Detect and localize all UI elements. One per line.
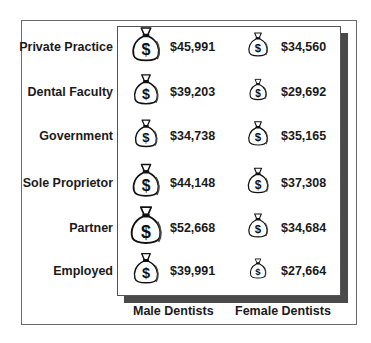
row-label: Partner [69,221,113,235]
money-bag-icon: $ [132,252,160,290]
svg-text:$: $ [142,86,150,102]
svg-text:$: $ [255,131,262,143]
male-salary-value: $45,991 [170,40,215,54]
money-bag-icon: $ [246,167,269,199]
row-label: Dental Faculty [28,85,113,99]
female-salary-value: $37,308 [281,176,326,190]
svg-text:$: $ [255,88,261,99]
money-bag-icon: $ [133,119,158,154]
row-label: Employed [53,264,113,278]
male-salary-value: $39,203 [170,85,215,99]
svg-text:$: $ [142,40,151,58]
svg-text:$: $ [142,177,151,194]
column-label-male: Male Dentists [133,304,214,318]
svg-text:$: $ [142,265,150,281]
female-salary-value: $34,560 [281,40,326,54]
money-bag-icon: $ [131,163,161,204]
female-salary-value: $35,165 [281,129,326,143]
svg-text:$: $ [255,223,262,235]
svg-text:$: $ [255,178,262,192]
column-label-female: Female Dentists [235,304,331,318]
male-salary-value: $34,738 [170,129,215,143]
money-bag-icon: $ [131,26,162,68]
female-salary-value: $27,664 [281,264,326,278]
male-salary-value: $52,668 [170,221,215,235]
male-salary-value: $39,991 [170,264,215,278]
money-bag-icon: $ [247,120,269,151]
female-salary-value: $34,684 [281,221,326,235]
money-bag-icon: $ [247,32,269,63]
svg-text:$: $ [142,130,150,145]
money-bag-icon: $ [249,258,267,284]
money-bag-icon: $ [132,73,160,111]
svg-text:$: $ [255,42,262,54]
svg-text:$: $ [255,266,261,277]
row-label: Sole Proprietor [23,176,113,190]
female-salary-value: $29,692 [281,85,326,99]
svg-text:$: $ [141,222,151,242]
money-bag-icon: $ [129,205,163,251]
male-salary-value: $44,148 [170,176,215,190]
money-bag-icon: $ [247,213,269,244]
row-label: Private Practice [19,40,113,54]
money-bag-icon: $ [248,78,267,106]
row-label: Government [39,129,113,143]
